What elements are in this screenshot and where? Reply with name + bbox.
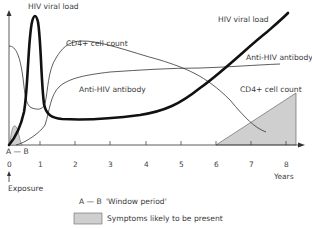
label-hiv-viral-load-right: HIV viral load (218, 15, 269, 24)
legend-symptoms-label: Symptoms likely to be present (107, 214, 223, 223)
hiv-progression-chart: HIV viral load HIV viral load CD4+ cell … (0, 0, 312, 228)
svg-text:6: 6 (214, 160, 219, 169)
exposure-arrow-icon (7, 171, 11, 176)
legend-symptoms-swatch (74, 213, 102, 224)
svg-text:8: 8 (284, 160, 289, 169)
svg-text:3: 3 (108, 160, 113, 169)
label-cd4-top: CD4+ cell count (66, 39, 128, 48)
svg-text:2: 2 (73, 160, 78, 169)
label-anti-hiv-right: Anti-HIV antibody (246, 53, 312, 62)
window-marker-ab: A — B (6, 147, 29, 156)
svg-text:1: 1 (38, 160, 43, 169)
y-axis-arrow-icon (7, 10, 12, 16)
svg-text:4: 4 (144, 160, 149, 169)
symptoms-shaded-region (216, 93, 296, 145)
exposure-label: Exposure (8, 184, 43, 193)
svg-text:5: 5 (179, 160, 184, 169)
label-cd4-right: CD4+ cell count (240, 85, 302, 94)
x-axis-label-years: Years (273, 172, 294, 181)
legend-window-period: 'Window period' (106, 197, 167, 206)
x-axis-arrow-icon (298, 143, 305, 148)
svg-text:7: 7 (249, 160, 254, 169)
x-tick-labels: 0 1 2 3 4 5 6 7 8 (7, 160, 289, 169)
svg-text:0: 0 (7, 160, 12, 169)
label-hiv-viral-load-top: HIV viral load (28, 2, 79, 11)
legend-window-marker: A — B (79, 197, 102, 206)
label-anti-hiv-mid: Anti-HIV antibody (79, 85, 146, 94)
